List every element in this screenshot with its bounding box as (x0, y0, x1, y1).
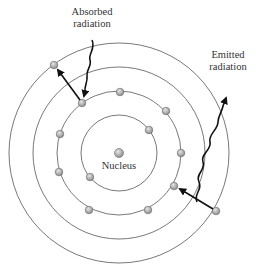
electron-icon (162, 107, 170, 115)
absorbed-label-line1: Absorbed (72, 6, 114, 17)
electron-icon (145, 126, 153, 134)
nucleus-label: Nucleus (102, 160, 136, 171)
electron-icon (56, 130, 64, 138)
electron-icon (116, 88, 124, 96)
atom-diagram: Nucleus Absorbed radiation Emitted radia… (0, 0, 256, 274)
emitted-label-line2: radiation (209, 61, 247, 72)
emitted-label-line1: Emitted (211, 49, 245, 60)
absorbed-label-line2: radiation (73, 18, 111, 29)
electron-icon (86, 173, 94, 181)
electrons (50, 61, 220, 215)
electron-icon (50, 61, 58, 69)
electron-icon (55, 168, 63, 176)
nucleus-icon (115, 149, 124, 158)
electron-icon (177, 149, 185, 157)
electron-icon (85, 206, 93, 214)
electron-icon (170, 182, 178, 190)
absorption-arrow (58, 70, 80, 100)
electron-icon (144, 206, 152, 214)
